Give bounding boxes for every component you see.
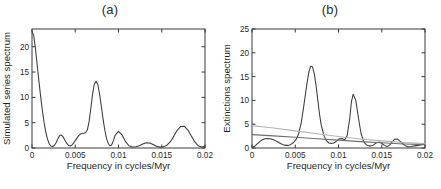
panel-a-plot: 00.0050.010.0150.0205101520Frequency in … <box>0 0 220 189</box>
plot-frame <box>252 29 425 148</box>
figure-container: (a) 00.0050.010.0150.0205101520Frequency… <box>0 0 441 189</box>
x-tick-label: 0 <box>250 151 255 160</box>
panel-a: (a) 00.0050.010.0150.0205101520Frequency… <box>0 0 220 189</box>
x-axis-label: Frequency in cycles/Myr <box>287 160 391 171</box>
plot-frame <box>32 29 205 148</box>
panel-b: (b) 00.0050.010.0150.020510152025Frequen… <box>220 0 440 189</box>
y-tick-label: 5 <box>244 120 249 129</box>
y-tick-label: 5 <box>24 119 29 128</box>
y-axis-label: Extinctions spectrum <box>221 44 232 133</box>
y-tick-label: 15 <box>240 73 250 82</box>
y-tick-label: 25 <box>240 25 250 34</box>
x-tick-label: 0 <box>30 151 35 160</box>
panel-b-title: (b) <box>220 2 440 17</box>
series-extinctions-spectrum <box>252 66 425 147</box>
x-tick-label: 0.01 <box>111 151 127 160</box>
panel-a-title: (a) <box>0 2 220 17</box>
y-tick-label: 15 <box>20 68 30 77</box>
y-tick-label: 20 <box>20 43 30 52</box>
x-tick-label: 0.015 <box>372 151 393 160</box>
x-tick-label: 0.015 <box>152 151 173 160</box>
series-group <box>252 66 425 147</box>
y-tick-label: 20 <box>240 49 250 58</box>
y-axis-label: Simulated series spectrum <box>1 32 12 145</box>
x-tick-label: 0.005 <box>65 151 86 160</box>
series-simulated-series-spectrum <box>32 32 205 148</box>
y-tick-label: 10 <box>240 96 250 105</box>
y-tick-label: 0 <box>24 144 29 153</box>
series-group <box>32 32 205 148</box>
panel-b-plot: 00.0050.010.0150.020510152025Frequency i… <box>220 0 440 189</box>
x-tick-label: 0.005 <box>285 151 306 160</box>
x-tick-label: 0.02 <box>197 151 213 160</box>
x-axis-label: Frequency in cycles/Myr <box>67 160 171 171</box>
y-tick-label: 10 <box>20 93 30 102</box>
y-tick-label: 0 <box>244 144 249 153</box>
x-tick-label: 0.01 <box>331 151 347 160</box>
x-tick-label: 0.02 <box>417 151 433 160</box>
